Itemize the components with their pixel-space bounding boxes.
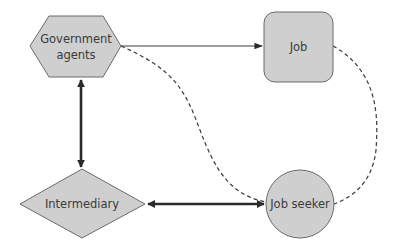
node-job-seeker[interactable]: Job seeker	[266, 170, 334, 238]
node-intermediary[interactable]: Intermediary	[20, 169, 145, 238]
intermediary-label: Intermediary	[45, 197, 119, 211]
government-label-line2: agents	[56, 48, 95, 62]
diagram-canvas: Government agents Job Intermediary Job s…	[0, 0, 395, 252]
jobseeker-label: Job seeker	[269, 197, 330, 211]
hexagon-shape	[30, 16, 121, 77]
node-job[interactable]: Job	[264, 12, 333, 82]
job-label: Job	[289, 40, 308, 54]
edge-government-jobseeker-dashed	[121, 46, 266, 202]
node-government-agents[interactable]: Government agents	[30, 16, 121, 77]
edge-job-jobseeker-dashed	[333, 46, 377, 204]
government-label-line1: Government	[40, 32, 112, 46]
